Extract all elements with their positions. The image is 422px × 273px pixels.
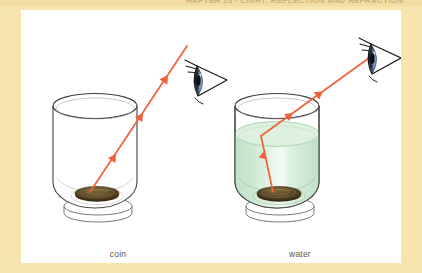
figure-root: HAPTER 23 · LIGHT: REFLECTION AND REFRAC… xyxy=(0,0,422,273)
coin-left xyxy=(71,186,123,204)
refraction-illustration xyxy=(21,10,401,263)
panel-water-glass xyxy=(235,38,401,222)
panel-empty-glass xyxy=(53,46,227,222)
eye-left xyxy=(185,60,227,104)
caption-coin: coin xyxy=(83,249,153,259)
caption-water: water xyxy=(265,249,335,259)
clipped-chapter-heading: HAPTER 23 · LIGHT: REFLECTION AND REFRAC… xyxy=(186,0,422,4)
coin-right xyxy=(253,186,305,204)
figure-panel: coin water xyxy=(21,10,401,263)
